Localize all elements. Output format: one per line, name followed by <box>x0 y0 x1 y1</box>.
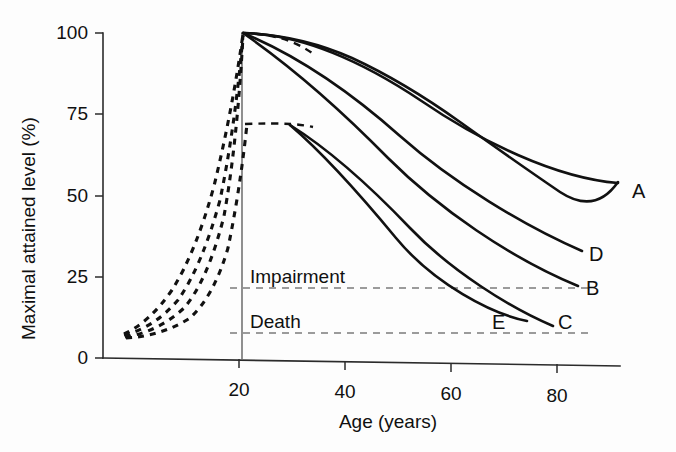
y-tick-label-0: 0 <box>30 347 88 369</box>
curve-A <box>243 33 618 201</box>
growth-curve-2 <box>124 35 243 335</box>
x-axis-title: Age (years) <box>278 411 498 433</box>
x-tick-label-60: 60 <box>421 383 481 405</box>
curve-D <box>243 33 582 251</box>
curve-E <box>290 125 527 321</box>
curve-label-E: E <box>492 311 505 334</box>
death-label: Death <box>250 311 301 333</box>
curve-label-B: B <box>586 277 599 300</box>
x-tick-label-40: 40 <box>315 381 375 403</box>
chart-figure: 100 75 50 25 0 20 40 60 80 Age (years) M… <box>0 0 676 452</box>
impairment-label: Impairment <box>250 266 345 288</box>
x-tick-label-20: 20 <box>209 379 269 401</box>
curve-label-C: C <box>558 311 572 334</box>
curve-label-D: D <box>589 243 603 266</box>
growth-curve-1 <box>124 34 243 334</box>
y-tick-label-100: 100 <box>30 22 88 44</box>
y-axis-title: Maximal attained level (%) <box>18 117 40 340</box>
plateau-dashed-reduced <box>245 124 313 128</box>
x-tick-label-80: 80 <box>527 385 587 407</box>
curve-label-A: A <box>632 180 645 203</box>
x-axis-line <box>103 358 620 366</box>
